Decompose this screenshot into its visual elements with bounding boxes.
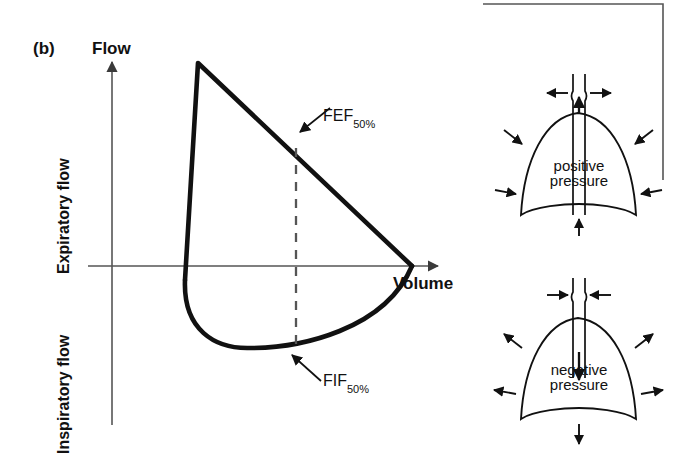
inspiratory-limb bbox=[185, 266, 412, 348]
panel-letter: (b) bbox=[33, 40, 55, 57]
fef-50-subscript: 50% bbox=[353, 118, 375, 130]
figure-panel-b: (b) Flow Expiratory flow Inspiratory flo… bbox=[0, 0, 695, 453]
trachea-right-wall-positive bbox=[585, 74, 587, 215]
positive-pressure-line2: pressure bbox=[519, 173, 639, 188]
y-axis-title: Flow bbox=[92, 40, 131, 57]
fef-50-text: FEF bbox=[323, 107, 353, 124]
fif-50-label: FIF50% bbox=[323, 373, 369, 392]
fif-50-text: FIF bbox=[323, 372, 347, 389]
flow-volume-loop bbox=[185, 63, 412, 348]
body-arrow-upper-right-positive bbox=[635, 130, 653, 144]
body-arrow-lower-right-negative bbox=[641, 390, 663, 394]
y-axis-lower-label: Inspiratory flow bbox=[56, 335, 72, 453]
negative-pressure-line2: pressure bbox=[519, 377, 639, 392]
negative-pressure-line1: negative bbox=[519, 362, 639, 377]
body-arrow-lower-right-positive bbox=[641, 190, 662, 194]
body-arrow-upper-left-negative bbox=[504, 334, 522, 348]
body-arrow-upper-right-negative bbox=[635, 334, 653, 348]
y-axis-upper-label: Expiratory flow bbox=[56, 158, 72, 274]
fif-50-subscript: 50% bbox=[347, 383, 369, 395]
positive-pressure-line1: positive bbox=[519, 158, 639, 173]
x-axis-title: Volume bbox=[393, 275, 453, 292]
expiratory-limb bbox=[185, 63, 412, 280]
positive-pressure-lung-graphic bbox=[495, 74, 662, 236]
positive-pressure-label: positive pressure bbox=[519, 158, 639, 189]
body-arrow-lower-left-negative bbox=[494, 390, 516, 394]
trachea-left-wall-positive bbox=[572, 74, 574, 215]
body-arrow-lower-left-positive bbox=[495, 190, 516, 194]
fef-50-label: FEF50% bbox=[323, 108, 375, 127]
body-arrow-upper-left-positive bbox=[504, 130, 522, 144]
negative-pressure-label: negative pressure bbox=[519, 362, 639, 393]
fif-50-arrow bbox=[292, 355, 321, 381]
